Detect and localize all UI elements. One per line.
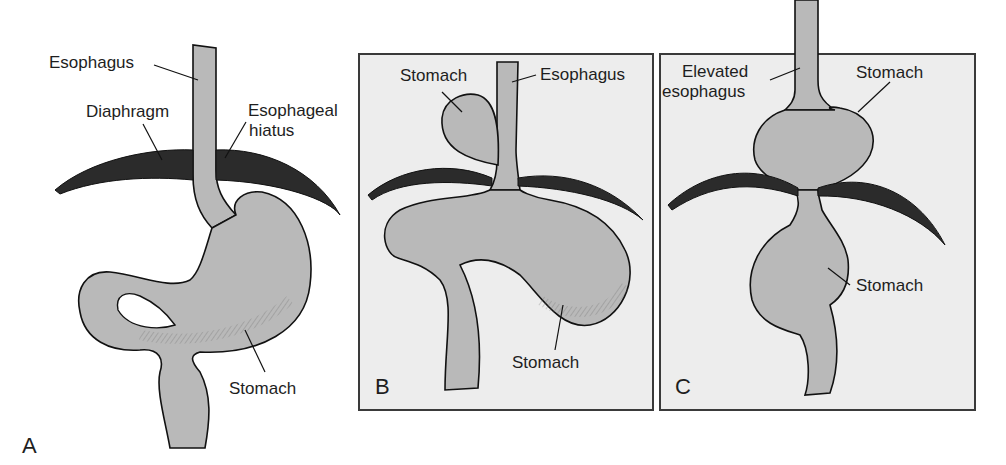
diaphragm-left-c <box>668 173 798 210</box>
esophagus-shape-c <box>785 0 835 110</box>
herniated-stomach-b <box>442 94 499 165</box>
label-hiatus-a-line2: hiatus <box>249 121 294 140</box>
lower-stomach-c <box>750 190 848 395</box>
label-esophagus-b: Esophagus <box>540 65 625 84</box>
panel-letter-a: A <box>22 433 37 459</box>
stomach-shape-a <box>79 192 311 448</box>
label-diaphragm-a: Diaphragm <box>86 102 169 121</box>
diaphragm-left-a <box>55 150 193 194</box>
label-elevated-esophagus-c-line1: Elevated <box>682 62 748 81</box>
panel-letter-c: C <box>675 374 691 400</box>
label-elevated-esophagus-c-line2: esophagus <box>662 82 745 101</box>
esophagus-shape-a <box>193 45 236 228</box>
label-stomach-b-upper: Stomach <box>400 66 467 85</box>
label-esophagus-a: Esophagus <box>49 53 134 72</box>
stomach-shape-b <box>385 190 631 390</box>
panel-b-drawing <box>368 62 643 390</box>
label-stomach-c-upper: Stomach <box>856 63 923 82</box>
label-stomach-c-lower: Stomach <box>856 276 923 295</box>
label-hiatus-a-line1: Esophageal <box>248 101 338 120</box>
label-stomach-a: Stomach <box>229 379 296 398</box>
panel-letter-b: B <box>375 374 390 400</box>
label-stomach-b-lower: Stomach <box>512 353 579 372</box>
panel-c-drawing <box>668 0 945 395</box>
